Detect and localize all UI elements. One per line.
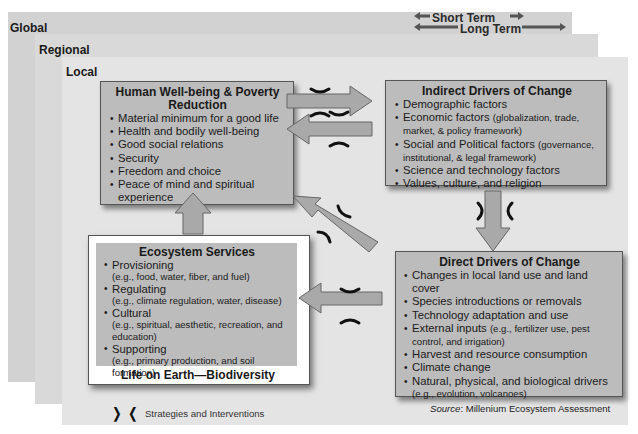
arrow-left-icon	[299, 283, 382, 313]
intervention-marker-icon	[508, 203, 512, 219]
arrow-diagonal-icon	[293, 196, 378, 252]
intervention-marker-icon	[478, 203, 482, 219]
intervention-marker-icon	[338, 206, 350, 217]
intervention-marker-icon	[341, 289, 359, 292]
arrow-down-icon	[476, 191, 510, 251]
arrow-left-icon	[287, 114, 372, 144]
source-credit: Source: Millenium Ecosystem Assessment	[430, 403, 610, 414]
intervention-marker-icon	[311, 89, 329, 92]
legend: ❭ ❬Strategies and Interventions	[111, 404, 264, 420]
intervention-marker-icon	[341, 320, 359, 323]
intervention-marker-icon	[330, 112, 348, 115]
arrow-up-icon	[175, 193, 211, 234]
intervention-marker-icon	[330, 143, 348, 146]
strategies-interventions-icon: ❭ ❬	[111, 405, 139, 421]
legend-label: Strategies and Interventions	[145, 408, 264, 419]
flow-arrows	[0, 0, 638, 434]
intervention-marker-icon	[311, 113, 329, 116]
intervention-marker-icon	[318, 232, 330, 242]
